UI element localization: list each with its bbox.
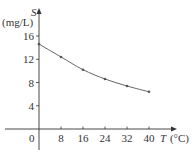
- origin-label: 0: [29, 132, 35, 144]
- data-point: [104, 78, 107, 81]
- x-tick-label: 24: [100, 132, 112, 144]
- x-tick-label: 32: [122, 132, 133, 144]
- y-axis-unit: (mg/L): [2, 16, 33, 29]
- x-tick-label: 16: [78, 132, 90, 144]
- x-axis-unit: (°C): [170, 132, 189, 145]
- data-markers: [38, 43, 151, 93]
- data-point: [148, 91, 151, 94]
- x-axis-label: T (°C): [160, 132, 189, 145]
- y-axis-arrow-icon: [37, 8, 42, 14]
- y-tick-label: 8: [29, 77, 35, 89]
- data-point: [60, 56, 63, 59]
- y-ticks: 481216: [23, 30, 39, 112]
- x-axis-variable: T: [160, 132, 167, 144]
- y-tick-label: 12: [23, 53, 34, 65]
- data-point: [38, 43, 41, 46]
- data-point: [82, 68, 85, 71]
- data-point: [126, 85, 129, 88]
- x-axis-arrow-icon: [171, 127, 177, 132]
- solubility-chart: 816243240 481216 0 S (mg/L) T (°C): [0, 0, 195, 152]
- data-curve: [39, 44, 149, 92]
- x-tick-label: 40: [144, 132, 156, 144]
- x-tick-label: 8: [58, 132, 64, 144]
- y-tick-label: 16: [23, 30, 35, 42]
- y-tick-label: 4: [29, 100, 35, 112]
